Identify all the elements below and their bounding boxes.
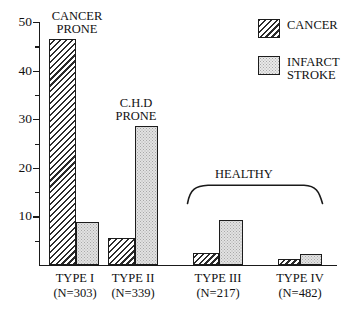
bar-type-iv-infarct (300, 254, 322, 265)
legend-swatch-infarct-stroke-icon (258, 56, 280, 75)
y-tick-10 (33, 216, 40, 217)
y-tick-5 (35, 241, 40, 242)
y-tick-35 (35, 95, 40, 96)
y-tick-25 (35, 144, 40, 145)
x-axis-label-type-iv-n: (N=482) (256, 286, 344, 301)
bar-type-ii-infarct (135, 126, 158, 265)
x-axis-label-type-ii-n: (N=339) (89, 286, 177, 301)
bar-type-ii-cancer (108, 238, 135, 265)
bar-type-iii-infarct (219, 220, 243, 265)
annotation-chd-prone: C.H.D PRONE (96, 97, 176, 122)
bar-type-iv-cancer (278, 259, 300, 265)
y-tick-15 (35, 192, 40, 193)
legend-label-cancer-line1: CANCER (287, 18, 338, 32)
legend-swatch-cancer-icon (258, 19, 280, 38)
x-axis-line (39, 265, 337, 266)
y-tick-45 (35, 46, 40, 47)
legend-item-cancer: CANCER (258, 19, 338, 38)
y-tick-20 (33, 168, 40, 169)
x-axis-label-type-iv: TYPE IV (N=482) (256, 271, 344, 300)
y-tick-30 (33, 119, 40, 120)
x-axis-label-type-iv-name: TYPE IV (276, 271, 324, 285)
bar-type-i-infarct (76, 222, 99, 265)
annotation-chd-prone-line2: PRONE (116, 109, 157, 123)
x-axis-label-type-ii-name: TYPE II (112, 271, 155, 285)
y-tick-40 (33, 71, 40, 72)
y-axis-label-40: 40 (4, 64, 32, 78)
y-axis-label-20: 20 (4, 161, 32, 175)
bar-type-iii-cancer (193, 253, 219, 265)
annotation-healthy-label: HEALTHY (215, 168, 273, 181)
legend-item-infarct-stroke: INFARCT STROKE (258, 56, 340, 82)
legend-label-cancer: CANCER (287, 19, 338, 32)
legend-label-infarct-line1: INFARCT (287, 55, 340, 69)
bar-type-i-cancer (49, 39, 76, 265)
annotation-cancer-prone: CANCER PRONE (33, 10, 121, 35)
x-axis-label-type-iii-name: TYPE III (195, 271, 242, 285)
y-axis-label-30: 30 (4, 112, 32, 126)
y-axis-label-10: 10 (4, 209, 32, 223)
y-axis-label-50: 50 (4, 15, 32, 29)
healthy-bracket (186, 183, 326, 205)
x-axis-label-type-iii: TYPE III (N=217) (174, 271, 262, 300)
bar-chart: 50 40 30 20 10 CANCER PRONE C.H.D PRONE … (0, 0, 344, 312)
x-axis-label-type-ii: TYPE II (N=339) (89, 271, 177, 300)
annotation-cancer-prone-line2: PRONE (57, 22, 98, 36)
x-axis-label-type-iii-n: (N=217) (174, 286, 262, 301)
legend-label-infarct-stroke: INFARCT STROKE (287, 56, 340, 82)
legend-label-infarct-line2: STROKE (287, 69, 340, 82)
